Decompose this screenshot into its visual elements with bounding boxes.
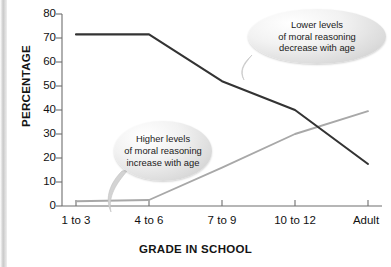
callout-upper-line3: decrease with age bbox=[279, 42, 355, 53]
chart-figure: PERCENTAGE 80 70 60 50 40 30 20 10 0 bbox=[0, 0, 391, 267]
callout-lower-line3: increase with age bbox=[127, 157, 200, 168]
callout-bubble-higher-levels: Higher levels of moral reasoning increas… bbox=[114, 121, 212, 181]
x-tick-7-to-9: 7 to 9 bbox=[208, 214, 237, 226]
callout-lower-line1: Higher levels bbox=[136, 133, 190, 144]
x-tick-4-to-6: 4 to 6 bbox=[135, 214, 164, 226]
x-tick-1-to-3: 1 to 3 bbox=[62, 214, 91, 226]
x-tick-10-to-12: 10 to 12 bbox=[274, 214, 316, 226]
x-tick-adult: Adult bbox=[353, 214, 379, 226]
callout-tail-upper bbox=[242, 55, 252, 80]
callout-upper-line2: of moral reasoning bbox=[278, 31, 356, 42]
y-tick-marks bbox=[56, 14, 62, 206]
x-axis-title: GRADE IN SCHOOL bbox=[0, 243, 391, 255]
callout-bubble-lower-levels: Lower levels of moral reasoning decrease… bbox=[248, 9, 386, 64]
callout-lower-line2: of moral reasoning bbox=[124, 145, 202, 156]
callout-upper-line1: Lower levels bbox=[291, 19, 343, 30]
